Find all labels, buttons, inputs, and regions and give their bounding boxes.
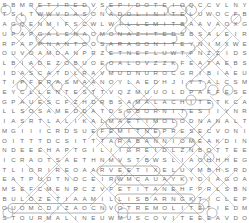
grid-cell-r4-c6[interactable]: A	[44, 29, 53, 39]
grid-cell-r22-c11[interactable]: C	[89, 204, 98, 214]
grid-cell-r20-c16[interactable]: I	[133, 184, 142, 194]
grid-cell-r4-c10[interactable]: A	[80, 29, 89, 39]
grid-cell-r1-c4[interactable]: R	[27, 0, 36, 10]
grid-cell-r16-c11[interactable]: I	[89, 145, 98, 155]
grid-cell-r17-c5[interactable]: O	[36, 155, 45, 165]
grid-cell-r5-c17[interactable]: O	[142, 39, 151, 49]
grid-cell-r2-c4[interactable]: T	[27, 10, 36, 20]
grid-cell-r11-c25[interactable]: T	[213, 97, 222, 107]
grid-cell-r15-c4[interactable]: T	[27, 136, 36, 146]
grid-cell-r12-c15[interactable]: G	[125, 107, 134, 117]
grid-cell-r21-c28[interactable]: P	[240, 194, 249, 204]
grid-cell-r6-c25[interactable]: Z	[213, 48, 222, 58]
grid-cell-r7-c16[interactable]: O	[133, 58, 142, 68]
grid-cell-r17-c27[interactable]: E	[231, 155, 240, 165]
grid-cell-r11-c3[interactable]: A	[18, 97, 27, 107]
grid-cell-r9-c14[interactable]: Y	[116, 78, 125, 88]
grid-cell-r13-c20[interactable]: L	[169, 116, 178, 126]
grid-cell-r20-c6[interactable]: M	[44, 184, 53, 194]
grid-cell-r10-c9[interactable]: E	[71, 87, 80, 97]
grid-cell-r22-c21[interactable]: I	[178, 204, 187, 214]
grid-cell-r8-c5[interactable]: C	[36, 68, 45, 78]
grid-cell-r23-c8[interactable]: L	[62, 213, 71, 223]
grid-cell-r3-c11[interactable]: W	[89, 19, 98, 29]
grid-cell-r3-c25[interactable]: A	[213, 19, 222, 29]
grid-cell-r13-c5[interactable]: T	[36, 116, 45, 126]
grid-cell-r14-c27[interactable]: N	[231, 126, 240, 136]
grid-cell-r6-c26[interactable]: I	[222, 48, 231, 58]
grid-cell-r1-c2[interactable]: B	[9, 0, 18, 10]
grid-cell-r8-c22[interactable]: R	[187, 68, 196, 78]
grid-cell-r9-c1[interactable]: T	[0, 78, 9, 88]
grid-cell-r19-c8[interactable]: N	[62, 175, 71, 185]
grid-cell-r22-c24[interactable]: T	[205, 204, 214, 214]
grid-cell-r23-c25[interactable]: A	[213, 213, 222, 223]
grid-cell-r18-c6[interactable]: I	[44, 165, 53, 175]
grid-cell-r20-c25[interactable]: L	[213, 184, 222, 194]
grid-cell-r18-c23[interactable]: M	[196, 165, 205, 175]
grid-cell-r11-c1[interactable]: G	[0, 97, 9, 107]
grid-cell-r2-c18[interactable]: N	[151, 10, 160, 20]
grid-cell-r7-c11[interactable]: O	[89, 58, 98, 68]
grid-cell-r12-c18[interactable]: R	[151, 107, 160, 117]
grid-cell-r14-c1[interactable]: M	[0, 126, 9, 136]
grid-cell-r1-c26[interactable]: L	[222, 0, 231, 10]
grid-cell-r4-c16[interactable]: Z	[133, 29, 142, 39]
grid-cell-r22-c28[interactable]: M	[240, 204, 249, 214]
grid-cell-r18-c12[interactable]: R	[98, 165, 107, 175]
grid-cell-r7-c2[interactable]: B	[9, 58, 18, 68]
grid-cell-r2-c20[interactable]: T	[169, 10, 178, 20]
grid-cell-r2-c11[interactable]: O	[89, 10, 98, 20]
grid-cell-r1-c17[interactable]: O	[142, 0, 151, 10]
grid-cell-r15-c21[interactable]: O	[178, 136, 187, 146]
grid-cell-r7-c23[interactable]: A	[196, 58, 205, 68]
grid-cell-r12-c11[interactable]: A	[89, 107, 98, 117]
grid-cell-r8-c2[interactable]: D	[9, 68, 18, 78]
grid-cell-r5-c22[interactable]: Y	[187, 39, 196, 49]
grid-cell-r8-c25[interactable]: I	[213, 68, 222, 78]
grid-cell-r16-c9[interactable]: T	[71, 145, 80, 155]
grid-cell-r13-c23[interactable]: N	[196, 116, 205, 126]
grid-cell-r11-c10[interactable]: H	[80, 97, 89, 107]
grid-cell-r14-c3[interactable]: I	[18, 126, 27, 136]
grid-cell-r4-c28[interactable]: R	[240, 29, 249, 39]
grid-cell-r16-c3[interactable]: E	[18, 145, 27, 155]
grid-cell-r11-c7[interactable]: C	[53, 97, 62, 107]
grid-cell-r2-c27[interactable]: F	[231, 10, 240, 20]
grid-cell-r17-c1[interactable]: I	[0, 155, 9, 165]
grid-cell-r8-c23[interactable]: I	[196, 68, 205, 78]
grid-cell-r23-c14[interactable]: M	[116, 213, 125, 223]
grid-cell-r13-c16[interactable]: T	[133, 116, 142, 126]
grid-cell-r8-c8[interactable]: D	[62, 68, 71, 78]
grid-cell-r3-c6[interactable]: M	[44, 19, 53, 29]
grid-cell-r6-c24[interactable]: Z	[205, 48, 214, 58]
grid-cell-r16-c8[interactable]: P	[62, 145, 71, 155]
grid-cell-r12-c8[interactable]: E	[62, 107, 71, 117]
grid-cell-r8-c12[interactable]: V	[98, 68, 107, 78]
grid-cell-r10-c16[interactable]: M	[133, 87, 142, 97]
grid-cell-r11-c12[interactable]: R	[98, 97, 107, 107]
grid-cell-r20-c21[interactable]: H	[178, 184, 187, 194]
grid-cell-r9-c10[interactable]: A	[80, 78, 89, 88]
grid-cell-r12-c1[interactable]: L	[0, 107, 9, 117]
grid-cell-r17-c4[interactable]: A	[27, 155, 36, 165]
grid-cell-r3-c12[interactable]: L	[98, 19, 107, 29]
grid-cell-r16-c17[interactable]: E	[142, 145, 151, 155]
grid-cell-r21-c2[interactable]: U	[9, 194, 18, 204]
grid-cell-r7-c3[interactable]: I	[18, 58, 27, 68]
grid-cell-r17-c21[interactable]: I	[178, 155, 187, 165]
grid-cell-r9-c5[interactable]: E	[36, 78, 45, 88]
grid-cell-r18-c2[interactable]: L	[9, 165, 18, 175]
grid-cell-r23-c15[interactable]: U	[125, 213, 134, 223]
grid-cell-r16-c12[interactable]: L	[98, 145, 107, 155]
grid-cell-r4-c3[interactable]: A	[18, 29, 27, 39]
grid-cell-r22-c7[interactable]: I	[53, 204, 62, 214]
grid-cell-r1-c10[interactable]: D	[80, 0, 89, 10]
grid-cell-r5-c7[interactable]: A	[53, 39, 62, 49]
grid-cell-r9-c26[interactable]: C	[222, 78, 231, 88]
grid-cell-r9-c22[interactable]: Y	[187, 78, 196, 88]
grid-cell-r7-c7[interactable]: Z	[53, 58, 62, 68]
grid-cell-r4-c8[interactable]: E	[62, 29, 71, 39]
grid-cell-r3-c13[interactable]: W	[107, 19, 116, 29]
grid-cell-r9-c17[interactable]: E	[142, 78, 151, 88]
